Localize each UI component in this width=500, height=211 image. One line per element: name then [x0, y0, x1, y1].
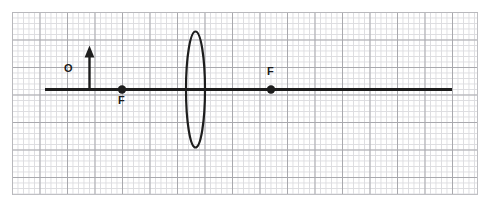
- focal-point-marker-right: [267, 85, 275, 93]
- object-arrow-head: [85, 46, 95, 58]
- focal-point-label-right: F: [267, 66, 274, 77]
- optics-drawing-layer: [0, 0, 500, 211]
- watermark-text: [22, 198, 352, 207]
- object-arrow: [85, 46, 95, 90]
- focal-point-marker-left: [118, 85, 126, 93]
- object-label: O: [64, 63, 73, 74]
- focal-point-label-left: F: [118, 95, 125, 106]
- diagram-canvas: O F F: [0, 0, 500, 211]
